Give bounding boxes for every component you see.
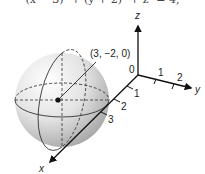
origin-label: 0 bbox=[129, 64, 135, 75]
x-tick-label-1: 1 bbox=[134, 88, 140, 99]
y-tick-label-2: 2 bbox=[177, 72, 183, 83]
z-axis-label: z bbox=[134, 10, 140, 21]
x-axis-label: x bbox=[38, 163, 45, 174]
y-axis bbox=[138, 75, 191, 88]
center-label: (3, −2, 0) bbox=[90, 48, 130, 59]
y-tick-label-1: 1 bbox=[158, 67, 164, 78]
sphere-diagram: z y 1 2 0 (3, −2, 0) x 1 2 3 bbox=[0, 0, 205, 174]
center-point bbox=[55, 97, 60, 102]
y-axis-label: y bbox=[194, 84, 201, 95]
y-tick-2 bbox=[172, 84, 174, 89]
x-tick-2 bbox=[114, 99, 120, 102]
x-tick-label-3: 3 bbox=[108, 114, 114, 125]
x-tick-1 bbox=[127, 86, 133, 89]
x-tick-label-2: 2 bbox=[121, 101, 127, 112]
